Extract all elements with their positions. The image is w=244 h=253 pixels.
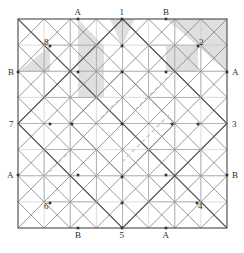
vertex-dot xyxy=(49,202,52,205)
edge-label-right-2: B xyxy=(232,171,238,180)
vertex-dot xyxy=(121,227,124,230)
vertex-dot xyxy=(121,176,124,179)
vertex-dot xyxy=(77,18,80,21)
vertex-dot xyxy=(121,123,124,126)
vertex-dot xyxy=(77,227,80,230)
vertex-dot xyxy=(17,71,20,74)
vertex-dot xyxy=(165,227,168,230)
vertex-dot xyxy=(226,71,229,74)
vertex-dot xyxy=(49,123,52,126)
edge-label-top-1: 1 xyxy=(120,8,125,17)
geometric-grid-diagram: A1BB5AB7AA3B8264 xyxy=(0,0,244,253)
vertex-dot xyxy=(77,71,80,74)
shaded-region-block-near-2 xyxy=(166,46,198,72)
vertex-dot xyxy=(165,174,168,177)
edge-label-left-1: 7 xyxy=(9,120,14,129)
edge-label-top-0: A xyxy=(75,8,82,17)
vertex-dot xyxy=(121,71,124,74)
shaded-region-sliver-right-of-1 xyxy=(122,19,135,46)
interior-label-2: 2 xyxy=(199,38,204,47)
interior-label-6: 6 xyxy=(44,202,49,211)
vertex-dot xyxy=(197,123,200,126)
vertex-dot xyxy=(71,123,74,126)
dashed-diagonal-segment xyxy=(44,151,70,177)
vertex-dot xyxy=(121,45,124,48)
interior-label-8: 8 xyxy=(44,38,49,47)
vertex-dot xyxy=(77,174,80,177)
edge-label-bottom-0: B xyxy=(75,231,81,240)
dashed-diagonal-segment xyxy=(122,112,172,162)
vertex-dot xyxy=(165,18,168,21)
interior-label-4: 4 xyxy=(198,202,203,211)
edge-label-top-2: B xyxy=(163,8,169,17)
edge-label-bottom-2: A xyxy=(163,231,170,240)
edge-label-left-2: A xyxy=(7,171,14,180)
vertex-dot xyxy=(121,18,124,21)
edge-label-right-1: 3 xyxy=(232,120,237,129)
vertex-dot xyxy=(121,202,124,205)
vertex-dot xyxy=(171,123,174,126)
edge-label-left-0: B xyxy=(8,68,14,77)
vertex-dot xyxy=(226,174,229,177)
vertex-dot xyxy=(165,71,168,74)
shaded-region-sliver-near-1 xyxy=(110,19,122,46)
vertex-dot xyxy=(49,45,52,48)
vertex-dot xyxy=(17,174,20,177)
edge-label-bottom-1: 5 xyxy=(120,231,125,240)
diagram-canvas xyxy=(0,0,244,253)
edge-label-right-0: A xyxy=(232,68,239,77)
